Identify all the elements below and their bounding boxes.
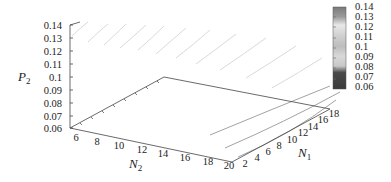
- y-tick: 6: [265, 146, 270, 157]
- y-tick: 18: [329, 108, 340, 119]
- x-tick: 12: [137, 144, 148, 155]
- surface-chart: 0.14 0.13 0.12 0.11 0.1 0.09 0.08 0.07 0…: [0, 0, 391, 182]
- z-tick-marks: [70, 25, 73, 128]
- colorbar: 0.14 0.13 0.12 0.11 0.1 0.09 0.08 0.07 0…: [333, 1, 374, 92]
- z-tick: 0.12: [44, 46, 62, 57]
- z-tick: 0.1: [49, 72, 62, 83]
- x-tick: 8: [94, 136, 99, 147]
- x-tick: 18: [203, 156, 214, 167]
- z-tick-labels: 0.14 0.13 0.12 0.11 0.1 0.09 0.08 0.07 0…: [44, 20, 63, 134]
- z-tick: 0.13: [44, 33, 62, 44]
- z-tick: 0.08: [44, 98, 62, 109]
- y-tick: 4: [254, 152, 260, 163]
- x-tick: 10: [114, 140, 125, 151]
- y-tick: 10: [287, 134, 298, 145]
- z-tick: 0.07: [44, 111, 62, 122]
- z-tick: 0.14: [44, 20, 63, 31]
- surface-contours: [72, 22, 322, 88]
- y-tick: 16: [318, 114, 329, 125]
- x-tick: 14: [158, 148, 169, 159]
- x-tick: 20: [224, 160, 235, 171]
- z-tick: 0.11: [44, 59, 62, 70]
- x-tick: 16: [180, 152, 191, 163]
- y-tick: 12: [298, 127, 309, 138]
- colorbar-tick: 0.06: [355, 81, 373, 92]
- x-tick: 6: [73, 132, 78, 143]
- z-axis-label: P2: [17, 69, 30, 86]
- x-axis-label: N2: [128, 156, 142, 173]
- y-tick: 2: [242, 158, 247, 169]
- y-tick: 8: [276, 140, 281, 151]
- x-tick-labels: 6 8 10 12 14 16 18 20: [73, 132, 234, 171]
- back-edge-ticks: [80, 81, 159, 125]
- z-tick: 0.09: [44, 85, 62, 96]
- y-axis-label: N1: [297, 145, 311, 162]
- z-tick: 0.06: [44, 123, 62, 134]
